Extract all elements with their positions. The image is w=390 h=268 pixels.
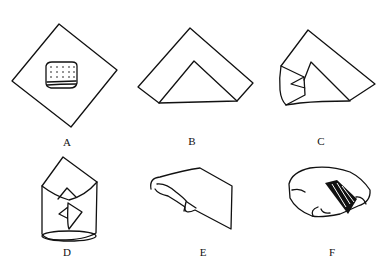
sheet-outline xyxy=(280,30,375,105)
package-outline xyxy=(289,167,370,217)
panel-c: C xyxy=(280,30,375,147)
panel-label-a: A xyxy=(63,136,71,148)
gauze-pad-icon xyxy=(46,62,77,88)
left-fold xyxy=(281,66,305,105)
panel-e: E xyxy=(151,168,232,258)
panel-label-c: C xyxy=(317,135,324,147)
folded-sheet xyxy=(138,28,253,103)
panel-a: A xyxy=(12,24,117,148)
wrapping-steps-figure: A B C D E F xyxy=(0,0,390,268)
package-outline xyxy=(151,168,232,229)
panel-label-f: F xyxy=(329,246,335,258)
panel-d: D xyxy=(42,157,97,258)
panel-b: B xyxy=(138,28,253,147)
inner-fold-triangle xyxy=(159,61,237,103)
inner-triangles xyxy=(58,188,82,229)
panel-label-e: E xyxy=(200,246,207,258)
rolled-edge xyxy=(157,184,196,208)
panel-label-b: B xyxy=(188,135,195,147)
inner-fold-triangle xyxy=(304,62,350,101)
front-roll xyxy=(312,207,330,216)
panel-label-d: D xyxy=(63,246,71,258)
panel-f: F xyxy=(289,167,370,258)
left-crease xyxy=(292,189,305,192)
